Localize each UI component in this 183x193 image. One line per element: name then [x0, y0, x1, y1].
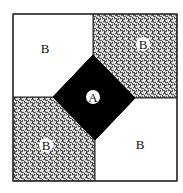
- label-b-top-left: B: [41, 41, 50, 56]
- label-a: A: [88, 90, 98, 105]
- label-b-top-right: B: [139, 37, 148, 52]
- pinwheel-diagram: A B B B B: [0, 0, 183, 193]
- label-b-bottom-left: B: [42, 138, 51, 153]
- label-b-bottom-right: B: [136, 137, 145, 152]
